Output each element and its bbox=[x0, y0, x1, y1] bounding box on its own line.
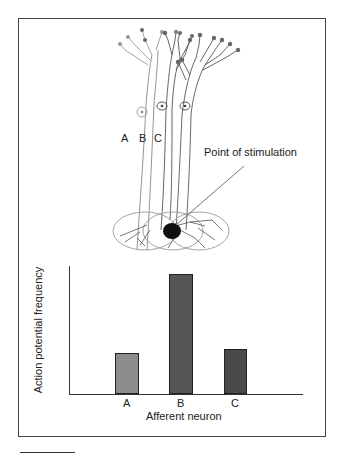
bar-c bbox=[224, 349, 247, 394]
neuron-label-b: B bbox=[139, 132, 146, 144]
bar-b bbox=[169, 274, 193, 394]
footnote-rule bbox=[20, 452, 75, 453]
x-axis bbox=[69, 394, 303, 395]
neuron-label-c: C bbox=[154, 132, 162, 144]
bar-a bbox=[115, 353, 139, 394]
neuron-label-a: A bbox=[121, 132, 128, 144]
x-tick-a: A bbox=[123, 397, 130, 409]
y-axis bbox=[69, 266, 70, 394]
neuron-diagram bbox=[0, 0, 341, 260]
x-axis-label: Afferent neuron bbox=[146, 410, 222, 422]
y-axis-label: Action potential frequency bbox=[32, 267, 44, 394]
stimulation-annotation: Point of stimulation bbox=[204, 146, 297, 158]
x-tick-c: C bbox=[231, 397, 239, 409]
x-tick-b: B bbox=[177, 397, 184, 409]
